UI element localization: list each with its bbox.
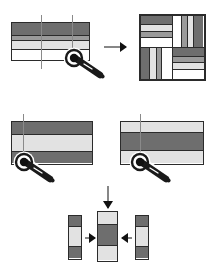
band-dark-middle [98, 225, 117, 247]
arrow-head [89, 233, 96, 243]
step3-right-segment [135, 215, 149, 260]
band-white [141, 38, 172, 46]
arrow-head [121, 233, 128, 243]
band-dark-bottom [12, 152, 92, 163]
band-light-bottom [121, 151, 203, 163]
step2-right-stripset [120, 121, 204, 165]
band-dark [12, 23, 89, 36]
band-dark-bottom [69, 247, 81, 258]
quadrant-bottom-right [172, 47, 205, 80]
band-white [12, 50, 89, 59]
band-white [162, 48, 171, 79]
band-light [173, 63, 204, 70]
band-dark-top [12, 122, 92, 135]
band-dark [194, 16, 203, 47]
band-light-top [121, 122, 203, 133]
quadrant-top-left [140, 15, 173, 48]
step1-result-block [139, 14, 206, 81]
quadrant-top-right [172, 15, 205, 48]
band-white [173, 16, 182, 47]
band-light [150, 48, 157, 79]
band-light-middle [12, 135, 92, 153]
cut-guide-right [140, 114, 141, 172]
assembly-arrow [102, 186, 113, 208]
band-dark [141, 48, 150, 79]
band-light [12, 41, 89, 50]
join-arrow-right [122, 233, 132, 242]
step1-source-stripset [11, 22, 90, 61]
join-arrow-left [85, 233, 95, 242]
band-light [188, 16, 195, 47]
figure-canvas [0, 0, 214, 272]
quadrant-bottom-left [140, 47, 173, 80]
band-light-middle [69, 227, 81, 247]
cut-guide-left [23, 114, 24, 172]
band-light-top [98, 212, 117, 225]
band-dark-top [136, 216, 148, 227]
arrow-head [103, 201, 113, 209]
arrow-head [120, 42, 127, 52]
band-light-middle [136, 227, 148, 247]
band-light [141, 25, 172, 32]
band-dark [141, 16, 172, 25]
band-dark-middle [121, 133, 203, 151]
step3-center-segment [97, 211, 118, 262]
band-dark-bottom [136, 247, 148, 258]
cut-guide-1 [41, 15, 42, 69]
band-dark-top [69, 216, 81, 227]
step3-left-segment [68, 215, 82, 260]
band-dark [173, 48, 204, 57]
band-white [173, 70, 204, 78]
band-light-bottom [98, 246, 117, 260]
transform-arrow [104, 41, 126, 52]
cut-guide-2 [72, 15, 73, 65]
